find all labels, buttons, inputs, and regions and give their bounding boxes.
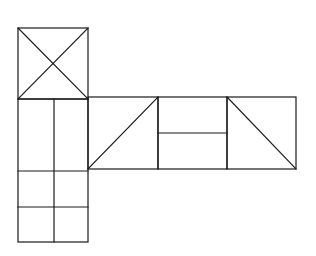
side-face-4	[227, 97, 296, 169]
side-face-4-diagonal	[227, 97, 296, 169]
box-net-diagram	[0, 0, 316, 256]
top-square-face	[18, 28, 88, 99]
side-face-2	[88, 97, 158, 169]
left-column-face	[18, 99, 88, 242]
side-face-3	[158, 97, 227, 169]
side-face-2-diagonal	[88, 97, 158, 169]
